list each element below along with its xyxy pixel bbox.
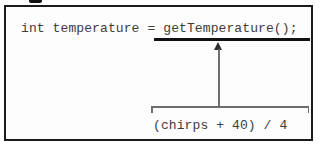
arrow-stem xyxy=(218,49,220,107)
cropped-text-fragment xyxy=(29,0,42,3)
bracket-right-tick xyxy=(308,106,310,113)
code-statement: int temperature = getTemperature(); xyxy=(21,22,298,36)
range-bracket xyxy=(151,106,309,108)
function-call-text: getTemperature(); xyxy=(163,21,297,36)
bracket-left-tick xyxy=(151,106,153,113)
emphasis-underline xyxy=(154,38,310,41)
expression-label: (chirps + 40) / 4 xyxy=(153,118,287,134)
figure-canvas: int temperature = getTemperature(); (chi… xyxy=(0,0,325,151)
code-prefix: int temperature = xyxy=(21,21,163,36)
